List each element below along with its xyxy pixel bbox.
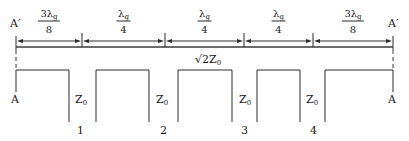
arrowhead-left-2 bbox=[83, 39, 89, 43]
arrowhead-left-5 bbox=[314, 39, 320, 43]
dimension-numerator-4: λg bbox=[273, 8, 284, 21]
stub-3-index: 3 bbox=[241, 124, 248, 137]
label-bottom-right: A bbox=[387, 93, 397, 106]
line-segment-2 bbox=[96, 70, 149, 122]
dimension-denominator-3: 4 bbox=[201, 24, 207, 35]
dimension-denominator-2: 4 bbox=[120, 24, 126, 35]
arrowhead-right-4 bbox=[306, 39, 312, 43]
arrowhead-right-3 bbox=[237, 39, 243, 43]
dimension-numerator-1: 3λg bbox=[40, 8, 58, 21]
stub-filter-diagram: 3λg8λg4λg4λg43λg8 A′ A′ A A √2Z0 Z0 Z0 Z… bbox=[0, 0, 409, 141]
stub-1-impedance: Z0 bbox=[75, 93, 87, 107]
label-top-right: A′ bbox=[387, 17, 399, 30]
arrowhead-left-3 bbox=[166, 39, 172, 43]
line-segment-1 bbox=[16, 70, 69, 122]
arrowhead-left-1 bbox=[17, 39, 23, 43]
label-bottom-left: A bbox=[10, 93, 20, 106]
dimension-labels: 3λg8λg4λg4λg43λg8 bbox=[38, 8, 364, 35]
arrowhead-right-1 bbox=[75, 39, 81, 43]
stub-2-impedance: Z0 bbox=[156, 93, 168, 107]
line-segment-5 bbox=[325, 70, 393, 122]
dimension-denominator-1: 8 bbox=[46, 24, 52, 35]
stub-4-index: 4 bbox=[310, 124, 317, 137]
dimension-numerator-2: λg bbox=[118, 8, 129, 21]
stub-3-impedance: Z0 bbox=[239, 93, 251, 107]
arrowhead-right-2 bbox=[158, 39, 164, 43]
stub-4-impedance: Z0 bbox=[306, 93, 318, 107]
stub-2-index: 2 bbox=[160, 124, 167, 137]
dimension-numerator-3: λg bbox=[199, 8, 210, 21]
line-segment-3 bbox=[178, 70, 232, 122]
dimension-denominator-5: 8 bbox=[350, 24, 356, 35]
main-line-impedance-label: √2Z0 bbox=[195, 53, 221, 67]
arrowhead-right-5 bbox=[386, 39, 392, 43]
dimension-arrows bbox=[17, 39, 392, 43]
line-segment-4 bbox=[257, 70, 300, 122]
label-top-left: A′ bbox=[9, 17, 21, 30]
dimension-denominator-4: 4 bbox=[275, 24, 281, 35]
stub-1-index: 1 bbox=[77, 124, 84, 137]
dimension-numerator-5: 3λg bbox=[344, 8, 362, 21]
arrowhead-left-4 bbox=[245, 39, 251, 43]
